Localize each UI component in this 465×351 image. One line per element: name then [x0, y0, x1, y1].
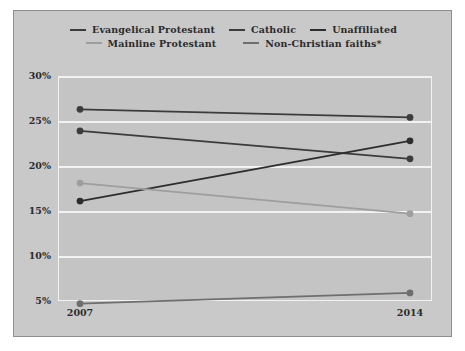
x-axis-tick-label: 2014: [397, 308, 423, 318]
y-axis-tick-label: 10%: [29, 251, 51, 261]
series-unaffiliated: [77, 137, 414, 204]
series-non-christian-faiths: [77, 290, 414, 308]
series-mainline-protestant: [77, 180, 414, 217]
data-point-marker: [407, 290, 414, 297]
data-point-marker: [77, 106, 84, 113]
x-axis: 20072014: [58, 308, 432, 328]
plot-area: [58, 76, 432, 301]
y-axis-tick-label: 30%: [29, 71, 51, 81]
data-point-marker: [77, 180, 84, 187]
series-evangelical-protestant: [77, 106, 414, 121]
y-axis-tick-label: 25%: [29, 116, 51, 126]
y-axis-tick-label: 20%: [29, 161, 51, 171]
series-catholic: [77, 128, 414, 163]
series-lines: [58, 76, 432, 301]
x-axis-tick-label: 2007: [67, 308, 93, 318]
series-line: [80, 141, 410, 201]
chart-screenshot: Evangelical Protestant Catholic Unaffili…: [0, 0, 465, 351]
series-line: [80, 183, 410, 214]
chart-card: Evangelical Protestant Catholic Unaffili…: [13, 10, 452, 337]
data-point-marker: [407, 114, 414, 121]
y-axis: 30%25%20%15%10%5%: [14, 11, 54, 338]
data-point-marker: [77, 128, 84, 135]
data-point-marker: [407, 155, 414, 162]
y-axis-tick-label: 5%: [35, 296, 51, 306]
series-line: [80, 131, 410, 159]
y-axis-tick-label: 15%: [29, 206, 51, 216]
plot-wrapper: 30%25%20%15%10%5% 20072014: [14, 11, 453, 338]
data-point-marker: [407, 137, 414, 144]
series-line: [80, 293, 410, 304]
data-point-marker: [407, 210, 414, 217]
data-point-marker: [77, 198, 84, 205]
series-line: [80, 109, 410, 117]
